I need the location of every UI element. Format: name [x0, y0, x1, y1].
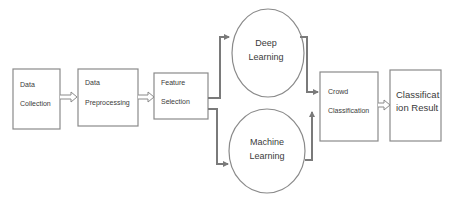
node-feature-selection: Feature Selection: [154, 73, 208, 119]
hollow-arrow-icon: [378, 100, 390, 110]
hollow-arrow-icon: [60, 92, 77, 102]
node-label-line: Learning: [249, 151, 284, 161]
node-label-line: Feature: [161, 79, 185, 86]
node-deep-learning: Deep Learning: [232, 9, 304, 97]
node-data-preprocessing: Data Preprocessing: [78, 69, 138, 126]
connector-machine-to-crowd: [305, 112, 312, 160]
node-label-line: Data: [85, 79, 100, 86]
node-label-line: Collection: [20, 100, 51, 107]
node-label-line: ion Result: [396, 102, 439, 113]
node-machine-learning: Machine Learning: [229, 109, 305, 193]
node-label-line: Selection: [161, 98, 190, 105]
node-label-line: Learning: [248, 52, 283, 62]
connector-feature-to-deep: [208, 37, 229, 98]
flowchart-canvas: Data Collection Data Preprocessing Featu…: [0, 0, 454, 203]
node-data-collection: Data Collection: [13, 69, 60, 129]
node-crowd-classification: Crowd Classification: [320, 72, 378, 141]
node-label-line: Crowd: [328, 88, 348, 95]
node-label-line: Preprocessing: [85, 99, 130, 107]
node-label-line: Machine: [250, 137, 284, 147]
connector-feature-to-machine: [208, 109, 228, 164]
hollow-arrow-icon: [138, 92, 154, 102]
node-label-line: Deep: [255, 38, 277, 48]
node-classification-result: Classificat ion Result: [390, 70, 441, 141]
node-label-line: Classification: [328, 107, 369, 114]
node-label-line: Data: [20, 81, 35, 88]
node-label-line: Classificat: [396, 89, 440, 100]
